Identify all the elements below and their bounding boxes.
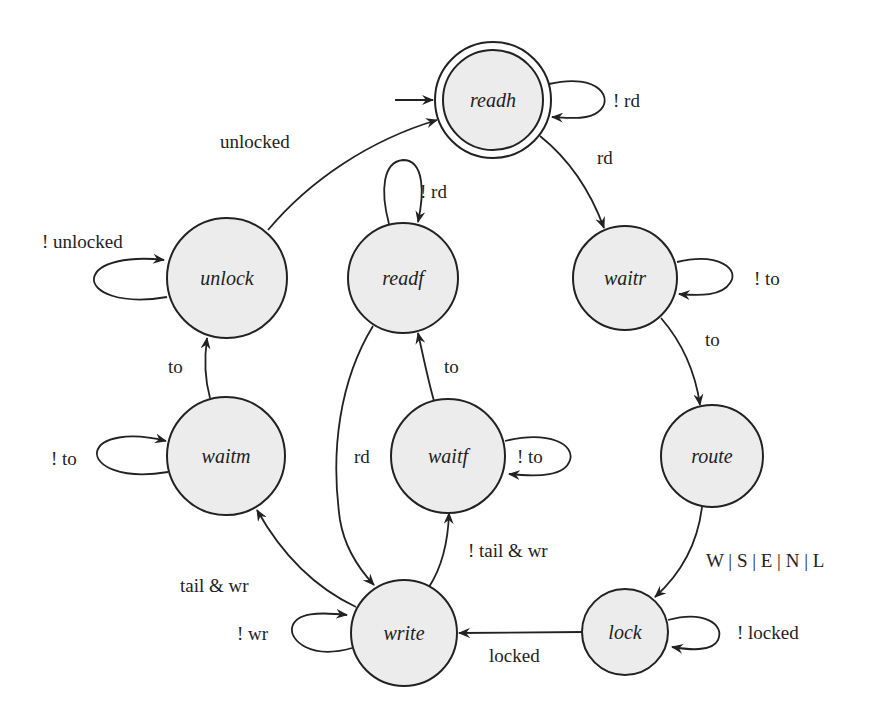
edge-readh-self (549, 81, 605, 118)
state-unlock: unlock (167, 218, 287, 338)
edge-waitr-route (661, 318, 700, 405)
state-label-readf: readf (382, 267, 426, 290)
edge-route-lock (655, 507, 702, 597)
state-label-waitr: waitr (604, 267, 646, 289)
state-waitf: waitf (391, 399, 505, 513)
state-write: write (351, 580, 457, 686)
edge-readh-waitr (540, 136, 604, 228)
state-label-write: write (383, 622, 424, 644)
label-lock-self: ! locked (737, 622, 799, 643)
state-label-unlock: unlock (200, 267, 254, 289)
label-waitr-route: to (705, 329, 720, 350)
state-diagram: readh unlock readf waitr waitm waitf rou… (0, 0, 879, 717)
edge-waitm-self (97, 437, 168, 475)
state-readf: readf (348, 223, 458, 333)
state-label-lock: lock (608, 621, 642, 643)
edge-unlock-self (94, 259, 167, 300)
label-readf-write: rd (354, 446, 370, 467)
state-waitr: waitr (573, 226, 677, 330)
state-label-waitm: waitm (202, 445, 251, 467)
label-lock-write: locked (489, 645, 540, 666)
label-waitf-readf: to (444, 356, 459, 377)
label-waitm-unlock: to (168, 356, 183, 377)
state-label-route: route (691, 445, 733, 467)
edge-lock-self (668, 617, 719, 650)
state-readh: readh (435, 42, 551, 158)
label-waitm-self: ! to (51, 448, 77, 469)
label-waitr-self: ! to (754, 268, 780, 289)
label-write-waitm: tail & wr (180, 575, 249, 596)
edge-waitr-self (677, 259, 733, 295)
edge-waitf-readf (418, 333, 434, 401)
label-write-self: ! wr (237, 623, 269, 644)
state-lock: lock (582, 589, 668, 675)
edge-write-waitf (429, 513, 449, 587)
edge-lock-write (459, 632, 583, 633)
label-write-waitf: ! tail & wr (468, 540, 548, 561)
label-unlock-self: ! unlocked (42, 231, 123, 252)
label-route-lock: W | S | E | N | L (706, 550, 824, 571)
label-waitf-self: ! to (517, 446, 543, 467)
label-readh-self: ! rd (613, 90, 640, 111)
state-waitm: waitm (167, 397, 285, 515)
state-route: route (661, 405, 763, 507)
edge-waitm-unlock (205, 338, 210, 398)
edge-unlock-readh (268, 120, 437, 230)
edge-write-self (292, 613, 352, 651)
edge-readf-self (384, 160, 422, 224)
label-readh-waitr: rd (597, 147, 613, 168)
state-label-waitf: waitf (428, 445, 470, 468)
label-unlock-readh: unlocked (220, 131, 290, 152)
label-readf-self: ! rd (420, 181, 447, 202)
state-label-readh: readh (470, 89, 516, 111)
